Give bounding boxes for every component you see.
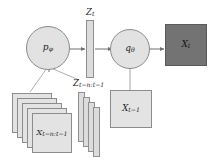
observation-current-square[interactable]: Xt — [165, 24, 207, 66]
observation-current-label: Xt — [182, 40, 191, 49]
latent-history-label: Zt−n:t−1 — [73, 79, 104, 88]
observation-history-label: Xt−n:t−1 — [36, 129, 67, 137]
node-prior-label: pφ — [43, 43, 53, 52]
observation-previous-label: Xt−1 — [122, 104, 140, 113]
node-decoder-label: qθ — [125, 44, 135, 53]
observation-history-square-front[interactable]: Xt−n:t−1 — [32, 113, 72, 153]
edge-history-obs-to-prior — [30, 68, 47, 92]
latent-history-slab-front[interactable] — [93, 107, 100, 157]
latent-current-label: Zt — [86, 8, 94, 17]
node-decoder[interactable]: qθ — [110, 29, 150, 69]
node-prior[interactable]: pφ — [26, 26, 70, 70]
observation-previous-square[interactable]: Xt−1 — [110, 90, 152, 128]
diagram-canvas: pφ Zt qθ Xt Xt−n:t−1 Zt−n:t−1 Xt− — [0, 0, 213, 164]
latent-current-slab[interactable] — [86, 20, 94, 78]
